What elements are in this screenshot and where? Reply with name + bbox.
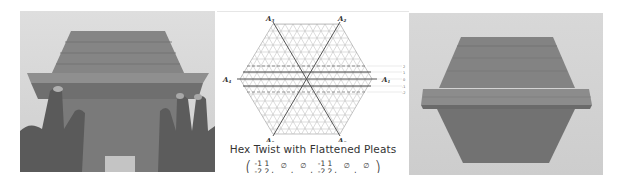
axis-label-a1: A1 — [381, 75, 390, 84]
empty-set-3: ∅ — [344, 162, 350, 170]
pleat-label-1: 1 — [403, 71, 405, 75]
pleat-label-neg1: -1 — [402, 85, 406, 89]
matrix-1-row-2: -2 2 — [255, 168, 270, 174]
axis-label-a6: A6 — [337, 136, 346, 142]
finished-fold-illustration — [409, 13, 603, 175]
folding-photo-illustration — [20, 11, 215, 172]
axis-label-a4: A4 — [222, 75, 231, 84]
left-photo-folding-in-hands — [20, 11, 215, 172]
axes — [237, 22, 377, 136]
separator: , — [354, 166, 357, 173]
hex-grid-diagram: A3 A2 A4 A1 A5 A6 2 1 0 -1 -2 — [217, 12, 409, 142]
crease-pattern-diagram: A3 A2 A4 A1 A5 A6 2 1 0 -1 -2 Hex Twist … — [217, 11, 409, 173]
empty-set-1: ∅ — [281, 162, 287, 170]
pleat-label-neg2: -2 — [402, 91, 406, 95]
signature-matrix-1: -1 1 -2 2 — [255, 160, 270, 174]
empty-set-2: ∅ — [300, 162, 306, 170]
axis-label-a5: A5 — [265, 136, 274, 142]
separator: , — [291, 166, 294, 173]
pleat-signature: ( -1 1 -2 2 , ∅, ∅, -1 1 -2 2 , ∅, ∅ ) — [217, 157, 409, 173]
pleat-label-2: 2 — [403, 65, 405, 69]
right-photo-finished-fold — [409, 13, 603, 175]
separator: , — [310, 166, 313, 173]
signature-matrix-2: -1 1 -2 2 — [318, 160, 333, 174]
pleat-label-0: 0 — [403, 78, 405, 82]
axis-label-a2: A2 — [337, 14, 346, 23]
triangle-grid — [217, 12, 409, 142]
separator: , — [334, 166, 337, 173]
diagram-title: Hex Twist with Flattened Pleats — [217, 143, 409, 155]
matrix-2-row-2: -2 2 — [318, 168, 333, 174]
separator: , — [271, 166, 274, 173]
close-paren: ) — [374, 157, 381, 173]
open-paren: ( — [245, 157, 252, 173]
empty-set-4: ∅ — [363, 162, 369, 170]
axis-label-a3: A3 — [265, 14, 274, 23]
